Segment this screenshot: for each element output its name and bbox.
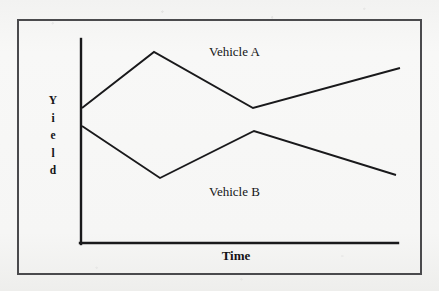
series-line-vehicle-a [82, 52, 400, 108]
y-axis-title-letter-5: d [50, 162, 56, 180]
y-axis-title: Y i e l d [43, 92, 63, 180]
screenshot-root: Y i e l d Vehicle A Vehicle B Time [0, 0, 439, 291]
series-line-vehicle-b [82, 126, 396, 178]
series-label-vehicle-b: Vehicle B [209, 184, 260, 200]
x-axis-title: Time [181, 248, 291, 264]
y-axis-title-letter-2: i [51, 110, 54, 128]
y-axis-title-letter-1: Y [49, 92, 57, 110]
y-axis-title-letter-4: l [51, 145, 54, 163]
series-label-vehicle-a: Vehicle A [209, 44, 260, 60]
y-axis-title-letter-3: e [50, 127, 55, 145]
